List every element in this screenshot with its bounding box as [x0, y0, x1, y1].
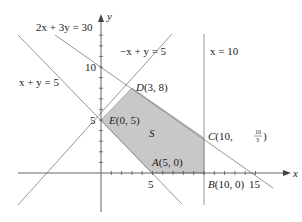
diagram-canvas: x y 5 15 5 10 2x + 3y = 30 −x + y = 5 x …	[0, 0, 302, 222]
x-axis-label: x	[292, 167, 298, 179]
label-neg-x-plus-y-eq-5: −x + y = 5	[120, 45, 167, 57]
vertex-c-label: C(10, 10 3 )	[208, 129, 267, 143]
y-tick-5: 5	[90, 114, 96, 126]
y-axis-arrow-icon	[98, 14, 104, 22]
x-tick-5: 5	[148, 178, 154, 190]
label-x-plus-y-eq-5: x + y = 5	[19, 76, 59, 88]
y-axis-label: y	[106, 10, 112, 22]
x-axis-arrow-icon	[283, 170, 291, 176]
vertex-c-frac-den: 3	[256, 137, 259, 143]
label-x-eq-10: x = 10	[210, 45, 239, 57]
vertex-c-frac-num: 10	[255, 129, 261, 135]
vertex-a-label: A(5, 0)	[151, 156, 183, 169]
vertex-e-label: E(0, 5)	[108, 114, 140, 127]
vertex-d-label: D(3, 8)	[135, 81, 168, 94]
lp-feasible-region-diagram: x y 5 15 5 10 2x + 3y = 30 −x + y = 5 x …	[0, 0, 302, 222]
region-label-s: S	[149, 127, 155, 139]
y-tick-10: 10	[85, 61, 97, 73]
x-tick-15: 15	[249, 178, 261, 190]
svg-text:C(10,: C(10,	[208, 130, 233, 143]
label-2x-plus-3y-eq-30: 2x + 3y = 30	[36, 21, 93, 33]
svg-text:): )	[263, 130, 267, 143]
vertex-b-label: B(10, 0)	[208, 178, 244, 191]
